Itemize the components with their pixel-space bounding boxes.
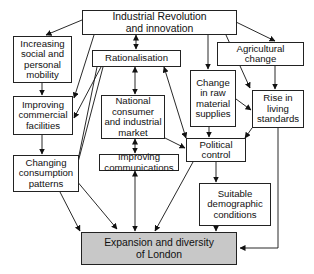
node-label: Change in raw material supplies [195,78,230,120]
node-rationalisation: Rationalisation [92,50,181,67]
node-label: Rationalisation [105,53,168,64]
node-label: Expansion and diversity of London [104,237,214,260]
node-political-control: Political control [186,138,246,162]
node-demographic-conditions: Suitable demographic conditions [199,183,271,226]
node-industrial-revolution: Industrial Revolution and innovation [82,10,237,35]
node-label: Improving communications [104,152,173,173]
node-label: Political control [199,140,232,161]
node-agricultural-change: Agricultural change [217,42,304,66]
node-consumption-patterns: Changing consumption patterns [13,155,79,192]
node-communications: Improving communications [99,154,179,171]
node-label: Increasing social and personal mobility [20,39,64,81]
node-label: Agricultural change [237,44,285,65]
node-expansion-london: Expansion and diversity of London [81,232,237,265]
node-label: National consumer and industrial market [104,96,161,138]
node-raw-material: Change in raw material supplies [190,70,236,127]
node-label: Improving commercial facilities [18,100,67,132]
node-label: Suitable demographic conditions [207,189,262,221]
node-living-standards: Rise in living standards [252,90,304,128]
node-label: Changing consumption patterns [19,158,73,190]
node-label: Industrial Revolution and innovation [112,11,206,34]
node-social-mobility: Increasing social and personal mobility [13,36,72,83]
node-national-market: National consumer and industrial market [101,95,165,139]
node-commercial-facilities: Improving commercial facilities [13,96,73,135]
node-label: Rise in living standards [257,93,299,125]
